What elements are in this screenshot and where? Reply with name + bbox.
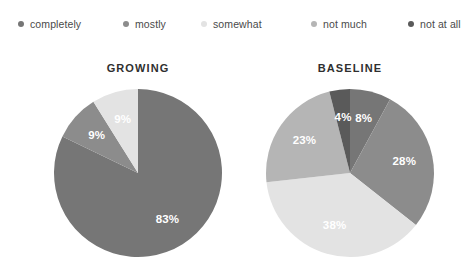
legend-item-mostly[interactable]: mostly xyxy=(123,19,166,30)
pie-slice-label: 4% xyxy=(335,111,352,123)
legend-item-label: not at all xyxy=(420,19,461,30)
legend-item-not-at-all[interactable]: not at all xyxy=(408,19,461,30)
legend-item-label: completely xyxy=(30,19,81,30)
pie-slice-label: 28% xyxy=(392,155,416,167)
legend-item-not-much[interactable]: not much xyxy=(311,19,367,30)
legend-item-label: not much xyxy=(323,19,367,30)
pie-chart-baseline: 8%28%38%23%4% xyxy=(265,88,435,258)
legend-dot-icon xyxy=(408,21,414,27)
pie-baseline-svg: 8%28%38%23%4% xyxy=(265,88,435,258)
pie-slice-label: 8% xyxy=(355,112,372,124)
legend-item-label: somewhat xyxy=(213,19,262,30)
pie-slice-label: 83% xyxy=(156,213,180,225)
legend-dot-icon xyxy=(311,21,317,27)
pie-slice-label: 9% xyxy=(88,129,105,141)
legend-item-somewhat[interactable]: somewhat xyxy=(201,19,262,30)
pie-slice-label: 38% xyxy=(323,219,347,231)
pie-slice-label: 9% xyxy=(114,113,131,125)
legend-dot-icon xyxy=(18,21,24,27)
chart-title-growing: GROWING xyxy=(38,62,238,74)
legend-dot-icon xyxy=(201,21,207,27)
legend-item-label: mostly xyxy=(135,19,166,30)
legend-dot-icon xyxy=(123,21,129,27)
pie-growing-svg: 83%9%9% xyxy=(53,88,223,258)
legend-item-completely[interactable]: completely xyxy=(18,19,81,30)
pie-chart-growing: 83%9%9% xyxy=(53,88,223,258)
legend: completely mostly somewhat not much not … xyxy=(0,14,474,34)
pie-slice-label: 23% xyxy=(293,134,317,146)
chart-title-baseline: BASELINE xyxy=(250,62,450,74)
